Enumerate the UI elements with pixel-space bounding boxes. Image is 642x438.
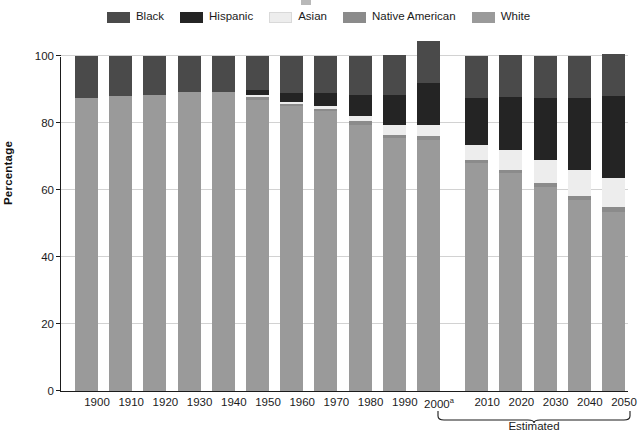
y-tick-40 (56, 256, 61, 257)
y-tick-20 (56, 323, 61, 324)
bar-segment-1980-white (349, 125, 372, 391)
legend-label-hispanic: Hispanic (209, 11, 253, 23)
y-tick-0 (56, 390, 61, 391)
bar-segment-2000-black (417, 41, 440, 83)
bar-segment-2020-hispanic (499, 97, 522, 151)
legend-swatch-white (472, 12, 495, 23)
bar-segment-1970-white (314, 111, 337, 391)
bar-1930 (178, 56, 201, 391)
bar-segment-2020-asian (499, 150, 522, 169)
bar-segment-1960-black (280, 56, 303, 93)
legend-item-asian: Asian (269, 11, 327, 23)
bar-segment-2040-hispanic (568, 98, 591, 170)
y-tick-label-40: 40 (41, 251, 54, 263)
bar-segment-1900-white (75, 98, 98, 391)
bar-segment-1950-white (246, 100, 269, 391)
bar-segment-1930-white (178, 92, 201, 391)
y-tick-label-100: 100 (35, 50, 54, 62)
bar-segment-1900-black (75, 56, 98, 98)
bar-1920 (143, 56, 166, 391)
bar-1970 (314, 56, 337, 391)
bar-segment-1970-black (314, 56, 337, 93)
bar-1990 (383, 55, 406, 391)
bar-2010 (465, 56, 488, 391)
bar-segment-1990-hispanic (383, 95, 406, 125)
bar-2030 (534, 56, 557, 391)
bar-segment-2030-black (534, 56, 557, 98)
legend-item-hispanic: Hispanic (180, 11, 253, 23)
bar-1960 (280, 56, 303, 391)
bar-segment-2010-black (465, 56, 488, 98)
legend-label-black: Black (136, 11, 164, 23)
bar-segment-1940-black (212, 56, 235, 92)
y-tick-label-20: 20 (41, 318, 54, 330)
bar-segment-1910-black (109, 56, 132, 96)
bar-segment-2040-black (568, 56, 591, 98)
legend-item-black: Black (107, 11, 164, 23)
bar-segment-2000-hispanic (417, 83, 440, 125)
legend-label-native-american: Native American (372, 11, 456, 23)
bar-segment-1960-white (280, 106, 303, 391)
bar-segment-2030-white (534, 187, 557, 391)
bar-segment-2010-hispanic (465, 98, 488, 145)
bar-2020 (499, 55, 522, 391)
legend-label-white: White (501, 11, 530, 23)
y-tick-80 (56, 122, 61, 123)
plot-area: 020406080100 (60, 57, 628, 392)
bar-2040 (568, 56, 591, 391)
legend-label-asian: Asian (298, 11, 327, 23)
legend-item-native-american: Native American (343, 11, 456, 23)
bar-segment-1940-white (212, 92, 235, 391)
y-tick-label-60: 60 (41, 184, 54, 196)
chart-legend: Black Hispanic Asian Native American Whi… (0, 6, 637, 28)
bar-segment-1970-hispanic (314, 93, 337, 106)
bar-segment-2030-hispanic (534, 98, 557, 160)
y-tick-60 (56, 189, 61, 190)
bar-segment-1980-black (349, 56, 372, 95)
stray-artifact-mark (301, 0, 311, 5)
bar-segment-2050-hispanic (602, 96, 625, 178)
bar-segment-2050-black (602, 54, 625, 96)
bar-segment-1920-white (143, 95, 166, 391)
bar-segment-2020-black (499, 55, 522, 97)
bar-segment-1990-asian (383, 125, 406, 134)
bar-segment-1930-black (178, 56, 201, 92)
estimated-caption: Estimated (436, 420, 632, 432)
bar-segment-1910-white (109, 96, 132, 391)
bar-segment-1990-black (383, 55, 406, 95)
y-tick-label-80: 80 (41, 117, 54, 129)
bar-segment-2010-white (465, 163, 488, 391)
bar-1900 (75, 56, 98, 391)
legend-swatch-black (107, 12, 130, 23)
y-tick-100 (56, 55, 61, 56)
bar-1940 (212, 56, 235, 391)
bar-segment-1990-white (383, 138, 406, 391)
bar-2050 (602, 54, 625, 391)
bar-segment-2000-white (417, 140, 440, 391)
legend-swatch-native-american (343, 12, 366, 23)
x-tick-label-2000: 2000a (417, 396, 461, 410)
bar-1980 (349, 56, 372, 391)
bar-segment-2010-asian (465, 145, 488, 160)
bar-segment-2040-asian (568, 170, 591, 196)
bar-segment-2040-white (568, 200, 591, 391)
bar-1910 (109, 56, 132, 391)
y-tick-label-0: 0 (48, 385, 54, 397)
bar-segment-1920-black (143, 56, 166, 95)
bar-1950 (246, 56, 269, 391)
legend-swatch-hispanic (180, 12, 203, 23)
bar-segment-2020-white (499, 173, 522, 391)
bar-segment-2030-asian (534, 160, 557, 183)
bar-segment-1980-hispanic (349, 95, 372, 117)
y-axis-title: Percentage (2, 141, 14, 205)
bar-2000 (417, 41, 440, 391)
bar-segment-1950-black (246, 56, 269, 90)
x-tick-label-2050: 2050 (602, 396, 642, 408)
bar-segment-2000-asian (417, 125, 440, 137)
legend-item-white: White (472, 11, 530, 23)
bar-segment-2050-asian (602, 178, 625, 206)
bar-segment-2050-white (602, 212, 625, 391)
bar-segment-1960-hispanic (280, 93, 303, 102)
legend-swatch-asian (269, 12, 292, 23)
